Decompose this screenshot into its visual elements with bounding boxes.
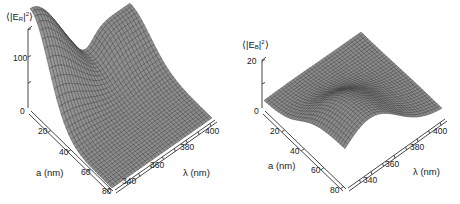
z-tick-100: 100: [13, 54, 27, 63]
a-axis-label: a (nm): [268, 161, 295, 171]
z-axis-label: ⟨|EB|2⟩: [242, 39, 269, 50]
lambda-tick-360: 360: [150, 161, 164, 170]
lambda-tick-400: 400: [433, 127, 447, 136]
a-axis-label: a (nm): [36, 168, 63, 178]
lambda-axis-label: λ (nm): [413, 167, 440, 177]
surface-plot-left: ⟨|ER|2⟩ 100 0 20 40 60 80 a (nm) 340 360…: [0, 0, 230, 204]
z-tick-0: 0: [254, 107, 259, 116]
a-tick-60: 60: [81, 168, 90, 177]
lambda-axis-label: λ (nm): [183, 168, 210, 178]
a-tick-60: 60: [311, 166, 320, 175]
lambda-tick-400: 400: [205, 127, 219, 136]
a-tick-80: 80: [330, 186, 339, 195]
lambda-tick-380: 380: [180, 143, 194, 152]
a-tick-40: 40: [59, 148, 68, 157]
lambda-tick-340: 340: [122, 177, 136, 186]
surface-plot-right: ⟨|EB|2⟩ 20 0 20 40 60 80 a (nm) 340 360 …: [230, 0, 460, 204]
a-tick-20: 20: [270, 127, 279, 136]
a-tick-20: 20: [38, 127, 47, 136]
lambda-tick-340: 340: [363, 176, 377, 185]
a-tick-40: 40: [290, 147, 299, 156]
z-tick-20: 20: [247, 57, 256, 66]
lambda-tick-360: 360: [385, 160, 399, 169]
z-tick-0: 0: [20, 107, 25, 116]
lambda-tick-380: 380: [410, 143, 424, 152]
a-tick-80: 80: [102, 187, 111, 196]
z-axis-label: ⟨|ER|2⟩: [6, 11, 33, 22]
